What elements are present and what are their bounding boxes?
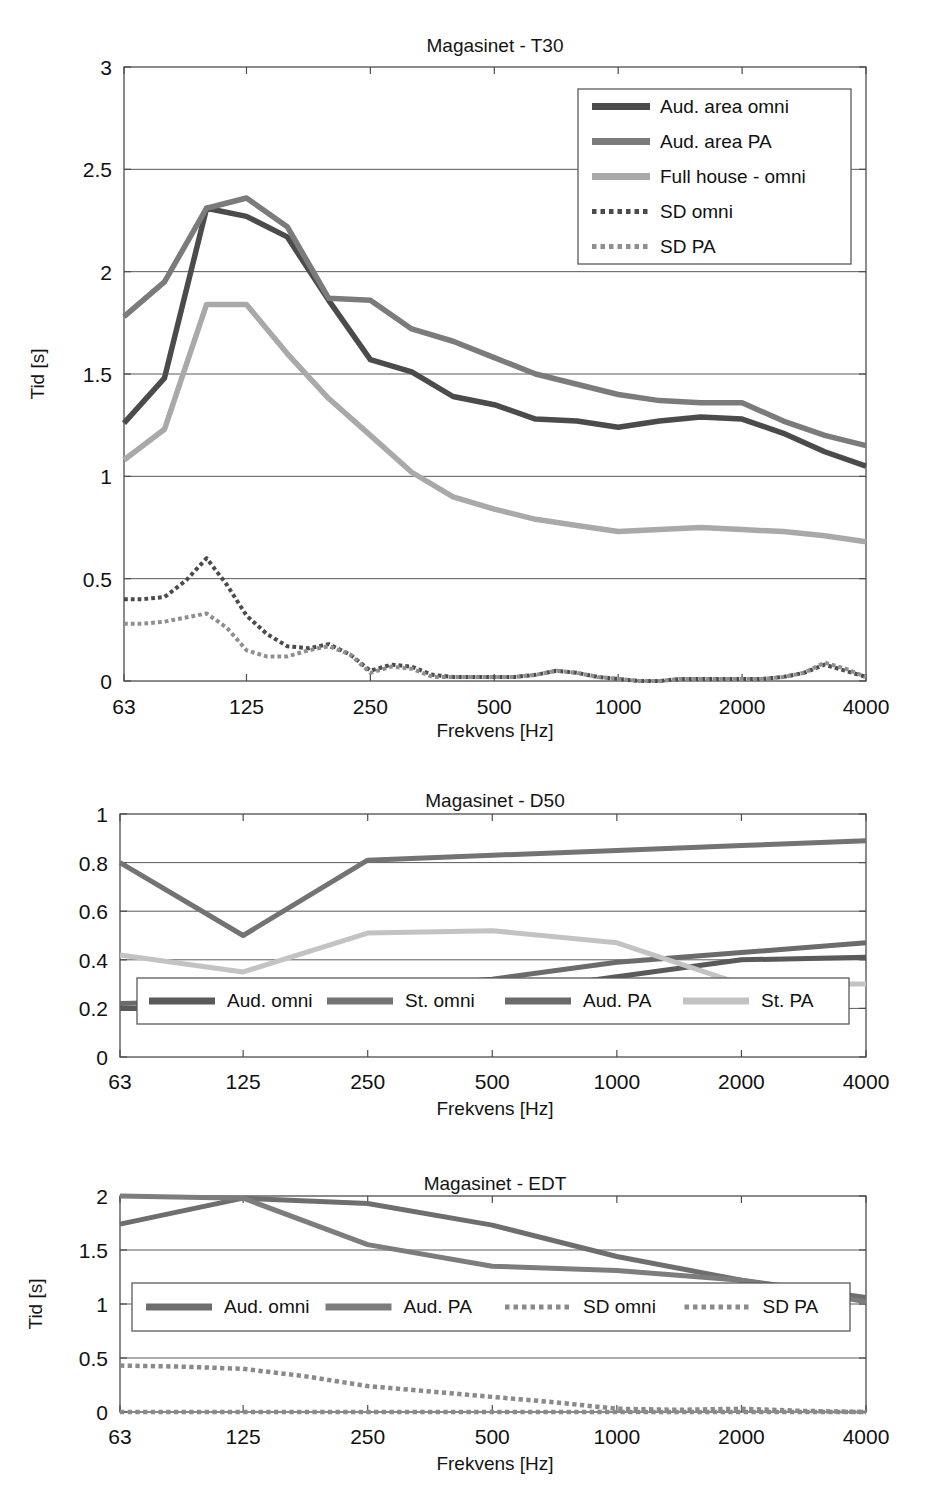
x-tick-label: 63 <box>112 695 135 718</box>
y-tick-label: 1 <box>96 803 108 826</box>
legend-label: SD omni <box>583 1296 656 1317</box>
x-tick-label: 500 <box>475 1070 510 1093</box>
x-axis-title-d50: Frekvens [Hz] <box>436 1098 553 1119</box>
y-tick-label: 0.6 <box>79 900 108 923</box>
series-group-t30 <box>124 198 866 681</box>
x-tick-label: 63 <box>108 1425 131 1448</box>
x-tick-label: 1000 <box>594 1070 641 1093</box>
series-line-sd-omni <box>120 1366 866 1412</box>
figure-page: Magasinet - T30 00.511.522.53 6312525050… <box>0 0 935 1487</box>
x-tick-label: 500 <box>477 695 512 718</box>
y-tick-label: 2 <box>96 1185 108 1208</box>
legend-label: St. PA <box>761 990 814 1011</box>
x-tick-labels-d50: 63125250500100020004000 <box>108 1070 889 1093</box>
y-tick-labels-edt: 00.511.52 <box>79 1185 108 1424</box>
legend-d50[interactable]: Aud. omniSt. omniAud. PASt. PA <box>137 978 849 1024</box>
x-axis-title-edt: Frekvens [Hz] <box>436 1453 553 1474</box>
x-tick-label: 2000 <box>718 1425 765 1448</box>
y-tick-label: 3 <box>100 56 112 79</box>
y-tick-label: 0 <box>100 670 112 693</box>
chart-title-edt: Magasinet - EDT <box>424 1173 567 1194</box>
x-tick-label: 63 <box>108 1070 131 1093</box>
x-tick-labels-edt: 63125250500100020004000 <box>108 1425 889 1448</box>
series-line-st-omni <box>120 841 866 936</box>
x-tick-label: 4000 <box>843 695 890 718</box>
y-tick-label: 0.5 <box>79 1347 108 1370</box>
legend-label: Aud. omni <box>227 990 313 1011</box>
legend-label: SD omni <box>660 201 733 222</box>
x-tick-label: 250 <box>350 1425 385 1448</box>
legend-label: SD PA <box>660 236 716 257</box>
legend-t30[interactable]: Aud. area omniAud. area PAFull house - o… <box>578 89 851 264</box>
y-tick-label: 0 <box>96 1046 108 1069</box>
y-axis-title-edt: Tid [s] <box>25 1278 46 1329</box>
legend-label: St. omni <box>405 990 475 1011</box>
chart-d50-svg: Magasinet - D50 00.20.40.60.81 631252505… <box>0 775 935 1140</box>
y-tick-label: 0.4 <box>79 949 109 972</box>
y-tick-label: 0.5 <box>83 568 112 591</box>
x-tick-labels-t30: 63125250500100020004000 <box>112 695 889 718</box>
chart-title-d50: Magasinet - D50 <box>425 790 564 811</box>
chart-d50: Magasinet - D50 00.20.40.60.81 631252505… <box>0 775 935 1140</box>
x-tick-label: 4000 <box>843 1070 890 1093</box>
y-tick-label: 2.5 <box>83 158 112 181</box>
legend-label: Aud. PA <box>583 990 652 1011</box>
x-tick-label: 250 <box>353 695 388 718</box>
x-tick-label: 125 <box>226 1425 261 1448</box>
y-tick-label: 2 <box>100 261 112 284</box>
series-line-sd-omni <box>124 558 866 681</box>
x-tick-label: 125 <box>226 1070 261 1093</box>
legend-label: Aud. omni <box>224 1296 310 1317</box>
legend-label: SD PA <box>763 1296 819 1317</box>
x-tick-label: 250 <box>350 1070 385 1093</box>
chart-edt: Magasinet - EDT 00.511.52 63125250500100… <box>0 1140 935 1487</box>
x-axis-title-t30: Frekvens [Hz] <box>436 720 553 741</box>
legend-label: Aud. PA <box>404 1296 473 1317</box>
x-tick-label: 1000 <box>594 1425 641 1448</box>
x-tick-label: 125 <box>229 695 264 718</box>
x-tick-label: 500 <box>475 1425 510 1448</box>
x-tick-label: 2000 <box>719 695 766 718</box>
y-tick-label: 1 <box>96 1293 108 1316</box>
x-tick-label: 2000 <box>718 1070 765 1093</box>
legend-label: Aud. area PA <box>660 131 772 152</box>
y-tick-label: 0 <box>96 1401 108 1424</box>
series-line-sd-pa <box>124 613 866 681</box>
x-tick-label: 1000 <box>595 695 642 718</box>
x-tick-label: 4000 <box>843 1425 890 1448</box>
y-tick-label: 1.5 <box>83 363 112 386</box>
chart-edt-svg: Magasinet - EDT 00.511.52 63125250500100… <box>0 1140 935 1487</box>
chart-title-t30: Magasinet - T30 <box>427 35 564 56</box>
chart-t30: Magasinet - T30 00.511.522.53 6312525050… <box>0 0 935 775</box>
legend-label: Aud. area omni <box>660 96 789 117</box>
chart-t30-svg: Magasinet - T30 00.511.522.53 6312525050… <box>0 0 935 775</box>
y-tick-label: 0.8 <box>79 852 108 875</box>
y-tick-label: 1 <box>100 465 112 488</box>
y-tick-label: 1.5 <box>79 1239 108 1262</box>
legend-label: Full house - omni <box>660 166 806 187</box>
y-axis-title-t30: Tid [s] <box>27 348 48 399</box>
y-tick-labels-d50: 00.20.40.60.81 <box>79 803 109 1069</box>
y-tick-labels-t30: 00.511.522.53 <box>83 56 112 693</box>
legend-edt[interactable]: Aud. omniAud. PASD omniSD PA <box>132 1283 850 1331</box>
y-tick-label: 0.2 <box>79 997 108 1020</box>
